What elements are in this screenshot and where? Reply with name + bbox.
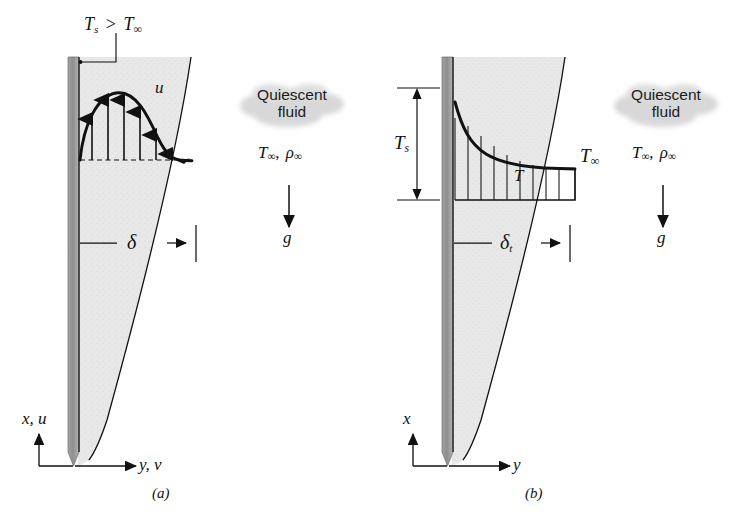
panel-a-gravity-label: g [283,228,292,248]
panel-b-temperature-profile-label: T [514,166,523,186]
panel-b-caption: (b) [525,485,543,502]
diagram-artwork [0,0,734,518]
panel-b-quiescent-fluid-label: Quiescent fluid [614,86,718,121]
panel-a-velocity-profile-label: u [155,78,164,98]
panel-b-ambient-properties: T∞, ρ∞ [632,143,676,163]
panel-a-horizontal-axis-label: y, v [139,455,162,475]
panel-a-quiescent-fluid-label: Quiescent fluid [240,86,344,121]
panel-b-boundary-layer-region [452,57,565,466]
panel-b-free-stream-temperature-label: T∞ [580,145,599,169]
panel-a-surface-temperature-condition: Ts > T∞ [84,14,142,37]
panel-b-vertical-axis-label: x [403,409,411,429]
panel-b-wall [442,57,453,466]
panel-a-caption: (a) [152,485,170,502]
panel-b-delta-t-label: δt [500,231,512,254]
panel-a-vertical-axis-label: x, u [22,409,47,429]
figure-canvas: Ts > T∞ u δ Quiescent fluid T∞, ρ∞ g x, … [0,0,734,518]
panel-a-ambient-properties: T∞, ρ∞ [258,143,302,163]
panel-b-wall-temperature-label: Ts [394,132,409,156]
panel-a-wall [68,57,79,466]
panel-b-horizontal-axis-label: y [513,455,521,475]
panel-a-boundary-layer-region [78,57,191,466]
panel-a-delta-label: δ [127,231,136,254]
panel-b-gravity-label: g [657,228,666,248]
